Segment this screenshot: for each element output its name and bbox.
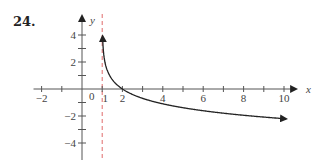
- y-tick-label: 2: [71, 56, 77, 68]
- y-axis-label: y: [89, 14, 95, 26]
- x-tick-label-one: 1: [102, 92, 108, 104]
- x-axis-label: x: [305, 83, 311, 95]
- y-tick-label: −4: [64, 137, 76, 149]
- x-tick-label: 8: [241, 92, 247, 104]
- y-tick-label: −2: [64, 110, 76, 122]
- x-tick-label: 10: [279, 92, 291, 104]
- function-curve: [103, 36, 286, 119]
- x-tick-label: −2: [36, 92, 48, 104]
- tick-labels: −22468101042−2−4xy: [36, 14, 311, 149]
- x-tick-label: 6: [200, 92, 206, 104]
- x-tick-label: 4: [160, 92, 166, 104]
- curve-upper: [103, 36, 286, 119]
- log-function-graph: −22468101042−2−4xy: [0, 0, 322, 166]
- y-tick-label: 4: [71, 29, 77, 41]
- x-tick-label: 2: [120, 92, 126, 104]
- origin-label: 0: [89, 90, 95, 102]
